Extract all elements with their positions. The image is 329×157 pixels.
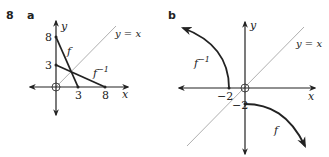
y-axis-label: y bbox=[249, 19, 257, 32]
tick-y-neg2: −2 bbox=[232, 99, 248, 112]
tick-y-3: 3 bbox=[45, 59, 52, 72]
identity-line-label: y = x bbox=[114, 28, 141, 39]
tick-y-8: 8 bbox=[45, 31, 52, 44]
label-f: f bbox=[66, 45, 73, 58]
label-f: f bbox=[273, 124, 280, 137]
identity-line-label: y = x bbox=[295, 38, 322, 49]
label-f-inverse: f−1 bbox=[92, 65, 109, 80]
x-axis-label: x bbox=[308, 90, 315, 103]
tick-x-3: 3 bbox=[75, 89, 82, 102]
label-f-inverse: f−1 bbox=[193, 55, 210, 70]
graph-a: y x 8 3 3 8 f f−1 y = x bbox=[30, 20, 141, 115]
tick-x-neg2: −2 bbox=[217, 90, 233, 103]
graph-b: y x −2 −2 f−1 f y = x bbox=[179, 19, 322, 154]
tick-x-8: 8 bbox=[102, 89, 109, 102]
x-axis-label: x bbox=[122, 88, 129, 101]
y-axis-label: y bbox=[60, 20, 68, 33]
diagram-canvas: y x 8 3 3 8 f f−1 y = x y x −2 −2 f−1 bbox=[0, 0, 329, 157]
